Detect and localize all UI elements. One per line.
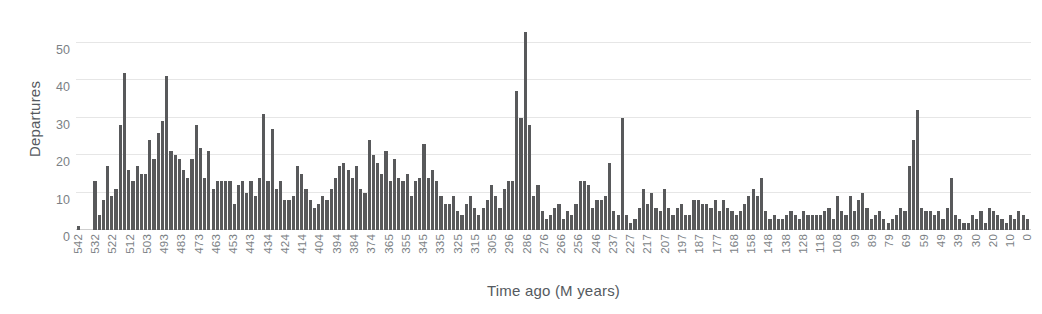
bar[interactable]	[604, 196, 607, 230]
bar[interactable]	[275, 189, 278, 230]
bar[interactable]	[899, 208, 902, 230]
bar[interactable]	[515, 91, 518, 230]
bar[interactable]	[574, 204, 577, 230]
bar[interactable]	[460, 215, 463, 230]
bar[interactable]	[498, 208, 501, 230]
bar[interactable]	[557, 204, 560, 230]
bar[interactable]	[667, 208, 670, 230]
bar[interactable]	[692, 200, 695, 230]
bar[interactable]	[823, 211, 826, 230]
bar[interactable]	[967, 223, 970, 230]
bar[interactable]	[469, 196, 472, 230]
bar[interactable]	[954, 215, 957, 230]
bar[interactable]	[233, 204, 236, 230]
bar[interactable]	[77, 226, 80, 230]
bar[interactable]	[1009, 215, 1012, 230]
bar[interactable]	[735, 215, 738, 230]
bar[interactable]	[389, 181, 392, 230]
bar[interactable]	[958, 219, 961, 230]
bar[interactable]	[878, 211, 881, 230]
bar[interactable]	[313, 208, 316, 230]
bar[interactable]	[397, 178, 400, 230]
bar[interactable]	[376, 163, 379, 230]
bar[interactable]	[646, 204, 649, 230]
bar[interactable]	[524, 32, 527, 231]
bar[interactable]	[659, 211, 662, 230]
bar[interactable]	[870, 219, 873, 230]
bar[interactable]	[266, 181, 269, 230]
bar[interactable]	[933, 215, 936, 230]
bar[interactable]	[756, 196, 759, 230]
bar[interactable]	[688, 215, 691, 230]
bar[interactable]	[178, 159, 181, 230]
bar[interactable]	[414, 181, 417, 230]
bar[interactable]	[186, 178, 189, 230]
bar[interactable]	[806, 215, 809, 230]
bar[interactable]	[490, 185, 493, 230]
bar[interactable]	[473, 208, 476, 230]
bar[interactable]	[347, 170, 350, 230]
bar[interactable]	[136, 166, 139, 230]
bar[interactable]	[528, 125, 531, 230]
bar[interactable]	[802, 211, 805, 230]
bar[interactable]	[212, 189, 215, 230]
bar[interactable]	[773, 215, 776, 230]
bar-slot[interactable]	[1025, 24, 1029, 230]
bar[interactable]	[228, 181, 231, 230]
bar[interactable]	[903, 211, 906, 230]
bar[interactable]	[271, 129, 274, 230]
bar[interactable]	[338, 166, 341, 230]
bar[interactable]	[579, 181, 582, 230]
bar[interactable]	[595, 200, 598, 230]
bar[interactable]	[1017, 211, 1020, 230]
bar[interactable]	[309, 200, 312, 230]
bar[interactable]	[401, 181, 404, 230]
bar[interactable]	[245, 193, 248, 230]
bar[interactable]	[422, 144, 425, 230]
bar[interactable]	[317, 204, 320, 230]
bar[interactable]	[448, 204, 451, 230]
bar[interactable]	[444, 204, 447, 230]
bar[interactable]	[152, 159, 155, 230]
bar[interactable]	[431, 170, 434, 230]
bar[interactable]	[148, 140, 151, 230]
bar[interactable]	[465, 204, 468, 230]
bar[interactable]	[207, 151, 210, 230]
bar[interactable]	[119, 125, 122, 230]
bar[interactable]	[439, 196, 442, 230]
bar[interactable]	[545, 219, 548, 230]
bar[interactable]	[161, 121, 164, 230]
bar[interactable]	[98, 215, 101, 230]
bar[interactable]	[663, 189, 666, 230]
bar[interactable]	[114, 189, 117, 230]
bar[interactable]	[304, 189, 307, 230]
bar[interactable]	[815, 215, 818, 230]
bar[interactable]	[106, 166, 109, 230]
bar[interactable]	[410, 196, 413, 230]
bar[interactable]	[482, 208, 485, 230]
bar[interactable]	[747, 196, 750, 230]
bar[interactable]	[279, 181, 282, 230]
bar[interactable]	[857, 200, 860, 230]
bar[interactable]	[920, 208, 923, 230]
bar[interactable]	[705, 204, 708, 230]
bar[interactable]	[709, 208, 712, 230]
bar[interactable]	[992, 211, 995, 230]
bar[interactable]	[827, 208, 830, 230]
bar[interactable]	[553, 208, 556, 230]
bar[interactable]	[541, 211, 544, 230]
bar[interactable]	[325, 200, 328, 230]
bar[interactable]	[684, 215, 687, 230]
bar[interactable]	[300, 174, 303, 230]
bar[interactable]	[570, 215, 573, 230]
bar[interactable]	[777, 219, 780, 230]
bar[interactable]	[996, 215, 999, 230]
bar[interactable]	[224, 181, 227, 230]
bar[interactable]	[562, 219, 565, 230]
bar[interactable]	[169, 151, 172, 230]
bar[interactable]	[144, 174, 147, 230]
bar[interactable]	[739, 211, 742, 230]
bar[interactable]	[591, 208, 594, 230]
bar[interactable]	[406, 174, 409, 230]
bar[interactable]	[549, 215, 552, 230]
